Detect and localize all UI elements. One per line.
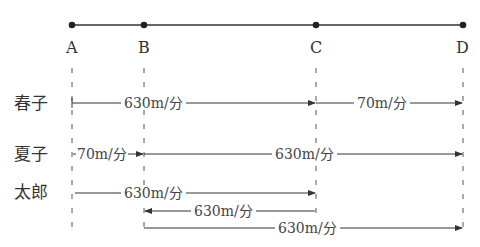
person-name-taro: 太郎: [14, 183, 48, 201]
point-a-dot: [69, 22, 76, 29]
person-name-natsuko: 夏子: [14, 145, 48, 163]
point-label-b: B: [138, 40, 150, 56]
person-name-haruko: 春子: [14, 94, 48, 112]
point-label-c: C: [310, 40, 322, 56]
point-b-dot: [141, 22, 148, 29]
point-label-a: A: [66, 40, 78, 56]
point-c-dot: [313, 22, 320, 29]
point-label-d: D: [456, 40, 469, 56]
taro-speed-a-c: 630m/分: [121, 186, 186, 200]
natsuko-speed-a-b: 70m/分: [76, 147, 128, 161]
natsuko-speed-b-d: 630m/分: [272, 147, 337, 161]
haruko-speed-c-d: 70m/分: [354, 96, 410, 110]
point-d-dot: [460, 22, 467, 29]
taro-speed-c-b: 630m/分: [191, 204, 256, 218]
haruko-speed-a-c: 630m/分: [121, 96, 186, 110]
taro-speed-b-d: 630m/分: [275, 221, 340, 235]
